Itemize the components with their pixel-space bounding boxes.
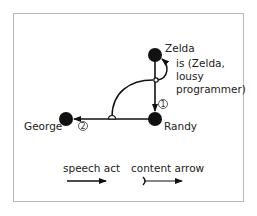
label-zelda: Zelda	[165, 42, 195, 54]
content-arrow-embedded	[112, 80, 153, 117]
node-randy	[148, 112, 162, 126]
content-junction-1	[154, 78, 158, 82]
legend-content-arrow	[143, 177, 182, 185]
step-marker-1: 1	[159, 100, 168, 110]
node-zelda	[148, 48, 162, 62]
content-junction-2	[109, 116, 116, 119]
content-arrow-to-zelda	[158, 59, 167, 80]
speech-act-diagram: Zelda Randy George is (Zelda, lousy prog…	[0, 0, 257, 216]
label-randy: Randy	[164, 120, 197, 132]
label-george: George	[24, 120, 62, 132]
content-label-line-1: is (Zelda,	[176, 57, 225, 69]
step-marker-2: 2	[79, 122, 88, 132]
content-label-line-3: programmer)	[176, 83, 246, 95]
content-label-line-2: lousy	[176, 70, 204, 82]
legend-content-arrow-label: content arrow	[131, 162, 205, 174]
legend-speech-act-label: speech act	[63, 162, 120, 174]
step-number-1: 1	[160, 100, 165, 109]
step-number-2: 2	[80, 122, 85, 131]
